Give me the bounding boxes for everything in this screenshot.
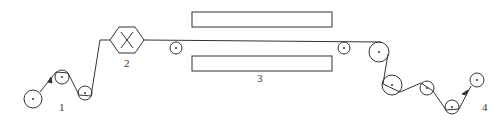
- upper-heater-plate: [192, 12, 332, 27]
- web-path-right: [383, 54, 471, 110]
- lower-heater-plate: [192, 56, 332, 71]
- process-diagram: 1 2 3 4: [0, 0, 500, 125]
- label-1: 1: [59, 101, 65, 113]
- arrow-in-icon: [48, 77, 52, 83]
- label-2: 2: [124, 57, 130, 69]
- label-4: 4: [482, 101, 488, 113]
- web-path-left: [40, 40, 110, 96]
- label-3: 3: [257, 72, 263, 84]
